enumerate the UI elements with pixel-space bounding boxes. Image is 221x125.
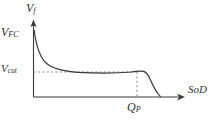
v-fc-label: VFC (1, 26, 19, 40)
discharge-curve-figure: Vf VFC Vcut QP SoD (0, 0, 221, 125)
vertical-axis (30, 20, 36, 98)
v-cut-label: Vcut (1, 63, 17, 75)
q-p-label: QP (127, 101, 141, 115)
horizontal-axis (34, 94, 186, 101)
plot-canvas (0, 0, 221, 125)
y-axis-label: Vf (26, 2, 36, 16)
x-axis-label: SoD (188, 84, 207, 95)
discharge-curve (34, 31, 160, 97)
